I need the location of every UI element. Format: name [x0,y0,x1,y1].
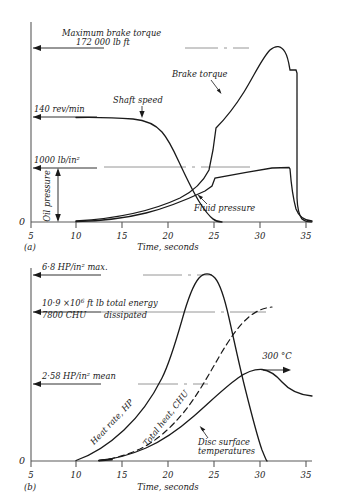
chart-a-series-fluid-pressure [76,168,312,222]
figure-root: 5 10 15 20 25 30 35 0 Time, seconds Maxi… [0,0,347,504]
chart-b: 5 10 15 20 25 30 35 0 Time, seconds 6·8 … [0,252,347,504]
chart-a-shaft-speed-leader [139,106,144,118]
chart-b-level-arrows [33,272,101,387]
chart-b-max-hp-label: 6·8 HP/in² max. [42,262,108,272]
chart-a-brake-torque-leader [211,80,222,94]
chart-b-tick-30: 30 [255,470,266,480]
chart-a-reference-lines [104,48,250,167]
chart-a-shaft-speed-label: Shaft speed [113,95,163,105]
chart-b-300c-label: 300 °C [262,351,292,361]
chart-a-origin-label: 0 [19,216,25,227]
chart-b-caption: (b) [24,482,36,492]
chart-b-energy-line1: 10·9 ×106 ft lb total energy [42,298,158,308]
chart-a-x-ticks [31,222,306,228]
chart-a-fluid-pressure-label: Fluid pressure [193,203,255,213]
chart-a-oil-pressure-dimension [55,168,61,222]
chart-a-tick-5: 5 [28,231,33,241]
chart-b-300c-arrow [263,367,291,373]
chart-a-tick-10: 10 [71,231,82,241]
chart-a-x-ticklabels: 5 10 15 20 25 30 35 [28,231,311,241]
chart-a-tick-25: 25 [208,231,220,241]
chart-a-oil-pressure-label: Oil pressure [42,170,52,222]
chart-b-x-ticklabels: 5 10 15 20 25 30 35 [28,470,311,480]
chart-b-total-heat-label: Total heat, CHU [141,388,191,448]
chart-b-disc-surface-line2: temperatures [198,446,255,456]
chart-a-caption: (a) [24,242,36,252]
chart-b-tick-25: 25 [208,470,220,480]
chart-b-tick-10: 10 [71,470,82,480]
chart-a-max-torque-line2: 172 000 lb ft [76,37,131,47]
chart-a-tick-35: 35 [301,231,312,241]
chart-b-tick-5: 5 [28,470,33,480]
chart-a-brake-torque-label: Brake torque [171,69,228,79]
chart-b-energy-units: ft lb total energy [84,298,158,308]
chart-a-x-axis-label: Time, seconds [137,242,199,252]
chart-a-oil-level-label: 1000 lb/in² [34,155,80,165]
chart-b-energy-mantissa: 10·9 ×10 [42,298,81,308]
chart-a-shaft-level-label: 140 rev/min [34,104,85,114]
chart-b-tick-35: 35 [301,470,312,480]
chart-a-tick-30: 30 [255,231,266,241]
chart-b-reference-lines [101,275,266,384]
chart-b-origin-label: 0 [19,455,25,466]
chart-b-x-axis-label: Time, seconds [137,482,199,492]
chart-b-energy-line3: dissipated [104,310,147,320]
chart-b-x-ticks [31,461,306,467]
chart-b-mean-hp-label: 2·58 HP/in² mean [41,371,116,381]
chart-b-energy-line2: 7800 CHU [42,310,87,320]
chart-b-tick-15: 15 [117,470,128,480]
chart-a-tick-20: 20 [162,231,174,241]
chart-a: 5 10 15 20 25 30 35 0 Time, seconds Maxi… [0,0,347,252]
chart-a-tick-15: 15 [117,231,128,241]
chart-b-tick-20: 20 [162,470,174,480]
